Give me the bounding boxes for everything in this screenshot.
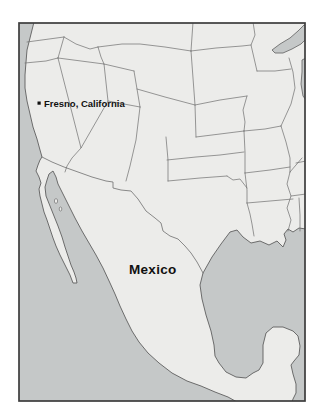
mexico-label: Mexico <box>129 262 177 277</box>
gulf-island <box>59 207 62 211</box>
gulf-island <box>54 199 57 204</box>
fresno-marker-icon <box>38 102 41 105</box>
us-mexico-map: Fresno, California Mexico <box>0 0 324 420</box>
fresno-label: Fresno, California <box>44 98 125 109</box>
map-container: Fresno, California Mexico <box>0 0 324 420</box>
